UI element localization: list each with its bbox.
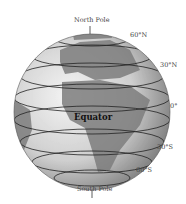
south-pole-label: South Pole bbox=[77, 185, 112, 193]
lat-30s-label: 30°S bbox=[157, 143, 173, 151]
lat-0-label: 0° bbox=[170, 102, 177, 110]
globe-illustration bbox=[0, 0, 186, 204]
lat-60s-label: 60°S bbox=[136, 166, 152, 174]
lat-30n-label: 30°N bbox=[160, 61, 177, 69]
lat-60n-label: 60°N bbox=[130, 31, 147, 39]
north-pole-label: North Pole bbox=[74, 16, 110, 24]
equator-label: Equator bbox=[74, 112, 112, 122]
